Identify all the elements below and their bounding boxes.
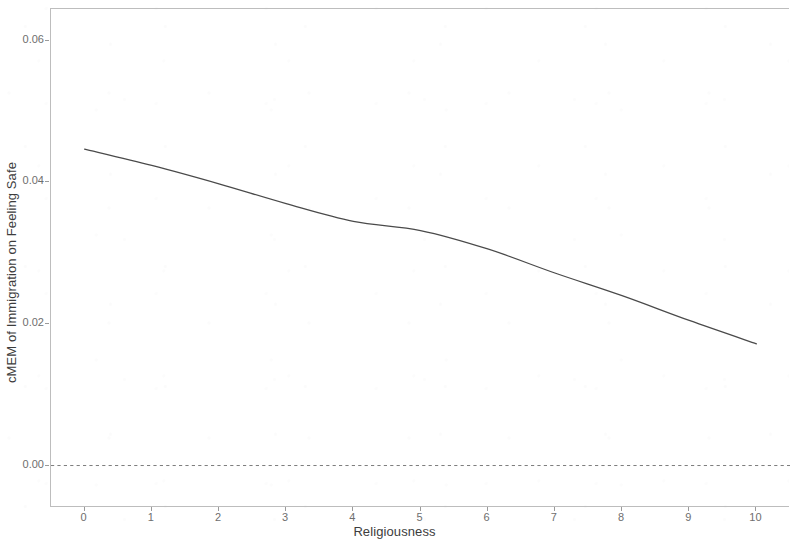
x-tick-label: 5 [400, 511, 440, 523]
x-tick-label: 2 [198, 511, 238, 523]
cmem-curve [85, 149, 757, 344]
x-tick-label: 9 [668, 511, 708, 523]
x-tick-label: 1 [131, 511, 171, 523]
x-tick-label: 6 [467, 511, 507, 523]
y-tick-mark [45, 181, 49, 182]
y-tick-mark [45, 323, 49, 324]
x-tick-label: 0 [64, 511, 104, 523]
x-tick-label: 8 [601, 511, 641, 523]
x-tick-label: 4 [332, 511, 372, 523]
y-tick-label: 0.02 [0, 316, 44, 328]
x-tick-label: 10 [735, 511, 775, 523]
y-tick-mark [45, 40, 49, 41]
y-tick-label: 0.00 [0, 458, 44, 470]
plot-canvas [51, 9, 790, 508]
x-axis-title: Religiousness [0, 524, 789, 539]
plot-panel [50, 8, 789, 507]
y-tick-mark [45, 465, 49, 466]
y-tick-label: 0.06 [0, 33, 44, 45]
x-tick-label: 7 [534, 511, 574, 523]
x-tick-label: 3 [265, 511, 305, 523]
y-tick-label: 0.04 [0, 174, 44, 186]
